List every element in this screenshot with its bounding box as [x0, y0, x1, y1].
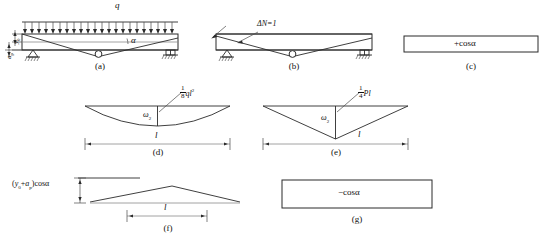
panel-d: 1 8 ql2 ω2 l (d): [60, 84, 260, 160]
caption-e: (e): [306, 147, 366, 157]
caption-g: (g): [327, 214, 387, 224]
value-label-g: −cosα: [338, 188, 360, 197]
peak-moment-label-d: 1 8 ql2: [180, 85, 194, 101]
panel-f: (y0+ap)cosα l (f): [0, 166, 240, 241]
distributed-load-arrows: [23, 22, 174, 34]
area-label-d: ω2: [143, 111, 151, 121]
panel-g-graphic: [262, 166, 512, 241]
panel-b: ΔN=1 (b): [196, 0, 396, 72]
panel-e: 1 4 Pl ω2 l (e): [248, 84, 448, 160]
span-label-f: l: [164, 203, 167, 212]
pin-support-b: [219, 50, 234, 61]
panel-g: −cosα (g): [262, 166, 512, 241]
dimension-label-y0: y0: [13, 38, 21, 44]
caption-a: (a): [70, 61, 130, 71]
area-label-e: ω2: [321, 114, 329, 124]
figure-canvas: q α y0 ap (a): [0, 0, 544, 241]
roller-support-b: [356, 50, 372, 59]
value-label-c: +cosα: [454, 39, 476, 48]
caption-b: (b): [264, 61, 324, 71]
caption-c: (c): [441, 61, 501, 71]
delta-n-label-b: ΔN=1: [257, 20, 276, 28]
dimension-label-ap: ap: [6, 53, 14, 59]
height-label-f: (y0+ap)cosα: [12, 180, 49, 190]
panel-c: +cosα (c): [398, 0, 544, 72]
span-label-d: l: [155, 131, 158, 140]
caption-d: (d): [128, 147, 188, 157]
load-label-a: q: [115, 1, 120, 10]
pin-support-a: [25, 50, 40, 61]
peak-moment-label-e: 1 4 Pl: [358, 85, 371, 101]
panel-a: q α y0 ap (a): [0, 0, 200, 72]
roller-support-a: [162, 50, 178, 59]
caption-f: (f): [138, 223, 198, 233]
angle-label-a: α: [131, 36, 136, 45]
panel-f-graphic: [0, 166, 240, 241]
span-label-e: l: [358, 130, 361, 139]
